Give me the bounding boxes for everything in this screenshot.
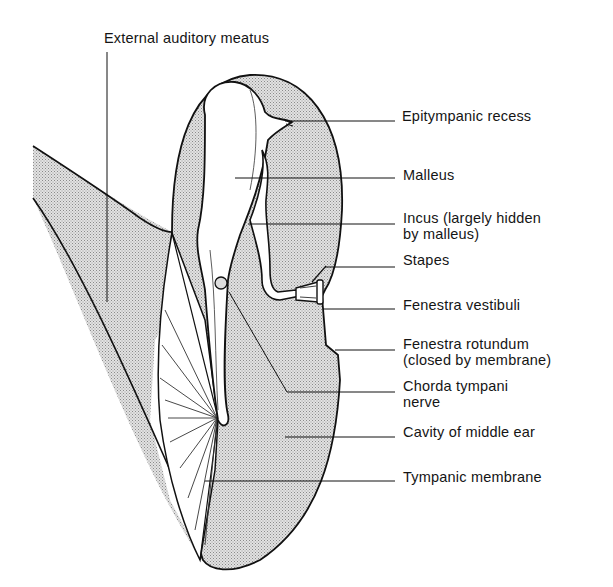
label-incus-line1: Incus (largely hidden — [403, 210, 541, 226]
label-chorda-tympani-line2: nerve — [403, 394, 440, 410]
label-fenestra-vestibuli: Fenestra vestibuli — [403, 297, 520, 313]
middle-ear-illustration — [0, 0, 613, 587]
label-fenestra-rotundum-line1: Fenestra rotundum — [403, 336, 529, 352]
label-tympanic-membrane: Tympanic membrane — [403, 469, 542, 485]
label-external-auditory-meatus: External auditory meatus — [104, 30, 269, 46]
chorda-tympani-section — [215, 277, 227, 289]
label-chorda-tympani-line1: Chorda tympani — [403, 378, 508, 394]
label-cavity-middle-ear: Cavity of middle ear — [403, 424, 535, 440]
label-incus-line2: by malleus) — [403, 226, 479, 242]
label-epitympanic-recess: Epitympanic recess — [402, 108, 531, 124]
label-fenestra-rotundum-line2: (closed by membrane) — [403, 352, 551, 368]
label-malleus: Malleus — [403, 167, 454, 183]
label-stapes: Stapes — [403, 252, 449, 268]
